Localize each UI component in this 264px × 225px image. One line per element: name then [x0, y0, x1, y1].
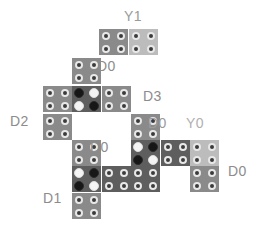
tile-dot-ring-icon — [208, 169, 216, 177]
tile-r2-c1[interactable] — [72, 86, 101, 112]
tile-dot-black-icon — [74, 88, 84, 98]
tile-dot-white-icon — [74, 101, 84, 111]
tile-dot-black-icon — [89, 168, 99, 178]
tile-dot-ring-icon — [46, 102, 54, 110]
label-d0-top: D0 — [97, 58, 116, 74]
tile-dot-ring-icon — [75, 61, 83, 69]
tile-dot-ring-icon — [208, 156, 216, 164]
tile-dot-ring-icon — [134, 169, 142, 177]
tile-dot-ring-icon — [208, 143, 216, 151]
tile-r4-c5[interactable] — [190, 140, 219, 166]
tile-dot-ring-icon — [120, 89, 128, 97]
tile-r5-c1[interactable] — [72, 166, 101, 192]
tile-dot-ring-icon — [46, 89, 54, 97]
tile-r0-c0[interactable] — [99, 29, 128, 55]
tile-dot-ring-icon — [61, 130, 69, 138]
tile-dot-ring-icon — [102, 32, 110, 40]
tile-dot-ring-icon — [75, 156, 83, 164]
tile-dot-ring-icon — [120, 169, 128, 177]
label-y0: Y0 — [186, 115, 204, 131]
tile-dot-ring-icon — [105, 89, 113, 97]
diagram-canvas: Y1D0D3D2D0Y0D0D0D1 — [0, 0, 264, 225]
label-d0-right: D0 — [228, 163, 247, 179]
tile-r5-c2[interactable] — [102, 166, 131, 192]
tile-dot-ring-icon — [90, 156, 98, 164]
tile-dot-ring-icon — [61, 89, 69, 97]
tile-dot-ring-icon — [61, 102, 69, 110]
tile-dot-ring-icon — [132, 32, 140, 40]
tile-dot-ring-icon — [90, 74, 98, 82]
tile-dot-ring-icon — [75, 143, 83, 151]
tile-dot-ring-icon — [132, 45, 140, 53]
tile-dot-ring-icon — [134, 182, 142, 190]
tile-dot-ring-icon — [102, 45, 110, 53]
tile-dot-ring-icon — [164, 156, 172, 164]
tile-dot-ring-icon — [75, 74, 83, 82]
tile-dot-ring-icon — [117, 32, 125, 40]
tile-r0-c1[interactable] — [129, 29, 158, 55]
label-d0-mid: D0 — [148, 115, 167, 131]
tile-dot-ring-icon — [179, 156, 187, 164]
tile-r4-c3[interactable] — [131, 140, 160, 166]
tile-dot-ring-icon — [117, 45, 125, 53]
tile-r3-c0[interactable] — [43, 114, 72, 140]
tile-dot-white-icon — [89, 181, 99, 191]
tile-dot-ring-icon — [120, 182, 128, 190]
label-d2: D2 — [10, 113, 29, 129]
label-d0-left: D0 — [90, 139, 109, 155]
tile-dot-ring-icon — [105, 169, 113, 177]
tile-dot-ring-icon — [134, 130, 142, 138]
label-d1: D1 — [43, 190, 62, 206]
tile-dot-ring-icon — [147, 32, 155, 40]
tile-dot-ring-icon — [193, 169, 201, 177]
tile-dot-ring-icon — [208, 182, 216, 190]
tile-dot-ring-icon — [149, 182, 157, 190]
tile-r5-c3[interactable] — [131, 166, 160, 192]
tile-dot-ring-icon — [134, 117, 142, 125]
tile-dot-white-icon — [74, 168, 84, 178]
tile-dot-ring-icon — [120, 102, 128, 110]
tile-r4-c4[interactable] — [161, 140, 190, 166]
tile-dot-ring-icon — [75, 209, 83, 217]
tile-dot-ring-icon — [147, 45, 155, 53]
tile-dot-ring-icon — [105, 182, 113, 190]
tile-dot-ring-icon — [90, 196, 98, 204]
label-y1: Y1 — [124, 8, 142, 24]
tile-dot-black-icon — [133, 155, 143, 165]
label-d3: D3 — [143, 88, 162, 104]
tile-dot-ring-icon — [46, 117, 54, 125]
tile-dot-white-icon — [89, 88, 99, 98]
tile-dot-white-icon — [148, 155, 158, 165]
tile-dot-ring-icon — [193, 182, 201, 190]
tile-dot-white-icon — [133, 142, 143, 152]
tile-dot-ring-icon — [46, 130, 54, 138]
tile-dot-ring-icon — [61, 117, 69, 125]
tile-r2-c2[interactable] — [102, 86, 131, 112]
tile-r6-c1[interactable] — [72, 193, 101, 219]
tile-dot-ring-icon — [75, 196, 83, 204]
tile-dot-ring-icon — [164, 143, 172, 151]
tile-dot-ring-icon — [149, 169, 157, 177]
tile-dot-black-icon — [89, 101, 99, 111]
tile-dot-ring-icon — [105, 102, 113, 110]
tile-r2-c0[interactable] — [43, 86, 72, 112]
tile-dot-ring-icon — [90, 209, 98, 217]
tile-dot-black-icon — [148, 142, 158, 152]
tile-dot-ring-icon — [193, 156, 201, 164]
tile-dot-ring-icon — [179, 143, 187, 151]
tile-dot-black-icon — [74, 181, 84, 191]
tile-r5-c5[interactable] — [190, 166, 219, 192]
tile-dot-ring-icon — [193, 143, 201, 151]
